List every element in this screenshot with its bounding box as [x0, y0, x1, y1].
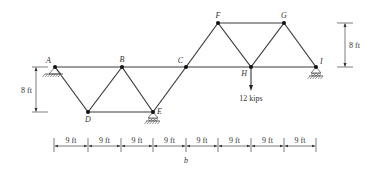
roller-wheel-icon: [315, 73, 318, 76]
span-dim-label: 9 ft: [197, 136, 209, 145]
span-dim-arrow-right-icon: [84, 145, 88, 148]
span-dim-arrow-right-icon: [214, 145, 218, 148]
left-dim-arrow-up-icon: [35, 67, 38, 71]
span-dim-label: 9 ft: [66, 136, 78, 145]
ground-hatch: [150, 121, 153, 124]
span-dim-arrow-left-icon: [122, 145, 126, 148]
joint-label-H: H: [240, 69, 248, 78]
load-label: 12 kips: [239, 94, 262, 103]
span-dim-arrow-left-icon: [187, 145, 191, 148]
span-dim-arrow-right-icon: [280, 145, 284, 148]
joint-label-C: C: [178, 56, 184, 65]
span-dim-arrow-left-icon: [219, 145, 223, 148]
joint-label-B: B: [120, 55, 125, 64]
figure-caption: b: [184, 156, 188, 165]
ground-hatch: [313, 76, 316, 79]
roller-wheel-icon: [318, 73, 321, 76]
span-dim-label: 9 ft: [295, 136, 307, 145]
member-FH: [218, 23, 251, 67]
ground-hatch: [155, 121, 158, 124]
member-BE: [122, 67, 153, 112]
ground-hatch: [43, 74, 46, 77]
span-dim-arrow-left-icon: [55, 145, 59, 148]
roller-wheel-icon: [149, 118, 152, 121]
ground-hatch: [308, 76, 311, 79]
ground-hatch: [310, 76, 313, 79]
ground-hatch: [321, 76, 324, 79]
left-dim-arrow-down-icon: [35, 108, 38, 112]
span-dim-label: 9 ft: [262, 136, 274, 145]
ground-hatch: [158, 121, 161, 124]
right-dim-arrow-down-icon: [344, 63, 347, 67]
ground-hatch: [50, 74, 53, 77]
span-dim-label: 9 ft: [99, 136, 111, 145]
left-height-dimension: 8 ft: [21, 67, 48, 112]
span-dim-label: 9 ft: [132, 136, 144, 145]
right-height-label: 8 ft: [349, 41, 361, 50]
span-dim-arrow-right-icon: [149, 145, 153, 148]
truss-svg: ABCDEFGHI 12 kips 8 ft 8 ft 9 ft9 ft9 ft…: [0, 0, 376, 175]
ground-hatch: [48, 74, 51, 77]
member-EC: [153, 67, 186, 112]
right-height-dimension: 8 ft: [337, 23, 361, 67]
joint-B: [120, 65, 124, 69]
ground-hatch: [58, 74, 61, 77]
span-dim-label: 9 ft: [164, 136, 176, 145]
ground-hatch: [56, 74, 59, 77]
span-dim-arrow-right-icon: [247, 145, 251, 148]
joint-label-G: G: [281, 11, 287, 20]
joint-G: [282, 21, 286, 25]
span-dim-arrow-left-icon: [89, 145, 93, 148]
joint-I: [314, 65, 318, 69]
ground-hatch: [315, 76, 318, 79]
joint-F: [216, 21, 220, 25]
ground-hatch: [145, 121, 148, 124]
roller-wheel-icon: [152, 118, 155, 121]
ground-hatch: [152, 121, 155, 124]
truss-diagram: ABCDEFGHI 12 kips 8 ft 8 ft 9 ft9 ft9 ft…: [0, 0, 376, 175]
span-dim-arrow-right-icon: [117, 145, 121, 148]
member-HG: [251, 23, 284, 67]
member-DB: [88, 67, 122, 112]
pin-support-A: [43, 67, 64, 77]
joint-label-D: D: [84, 115, 91, 124]
roller-wheel-icon: [312, 73, 315, 76]
roller-wheel-icon: [155, 118, 158, 121]
right-dim-arrow-up-icon: [344, 23, 347, 27]
joint-E: [151, 110, 155, 114]
span-dim-arrow-right-icon: [312, 145, 316, 148]
span-dim-arrow-left-icon: [252, 145, 256, 148]
joint-label-A: A: [45, 56, 51, 65]
left-height-label: 8 ft: [21, 86, 33, 95]
joint-label-I: I: [319, 57, 323, 66]
ground-hatch: [147, 121, 150, 124]
joint-C: [184, 65, 188, 69]
member-CF: [186, 23, 218, 67]
ground-hatch: [53, 74, 56, 77]
span-dimensions: 9 ft9 ft9 ft9 ft9 ft9 ft9 ft9 ft: [54, 136, 316, 152]
joint-label-F: F: [215, 11, 221, 20]
joint-D: [86, 110, 90, 114]
joint-H: [249, 65, 253, 69]
span-dim-arrow-right-icon: [182, 145, 186, 148]
joint-label-E: E: [156, 107, 162, 116]
load-arrow-head-icon: [249, 85, 253, 91]
span-dim-label: 9 ft: [229, 136, 241, 145]
joint-A: [53, 65, 57, 69]
member-GI: [284, 23, 316, 67]
ground-hatch: [318, 76, 321, 79]
span-dim-arrow-left-icon: [285, 145, 289, 148]
ground-hatch: [45, 74, 48, 77]
span-dim-arrow-left-icon: [154, 145, 158, 148]
